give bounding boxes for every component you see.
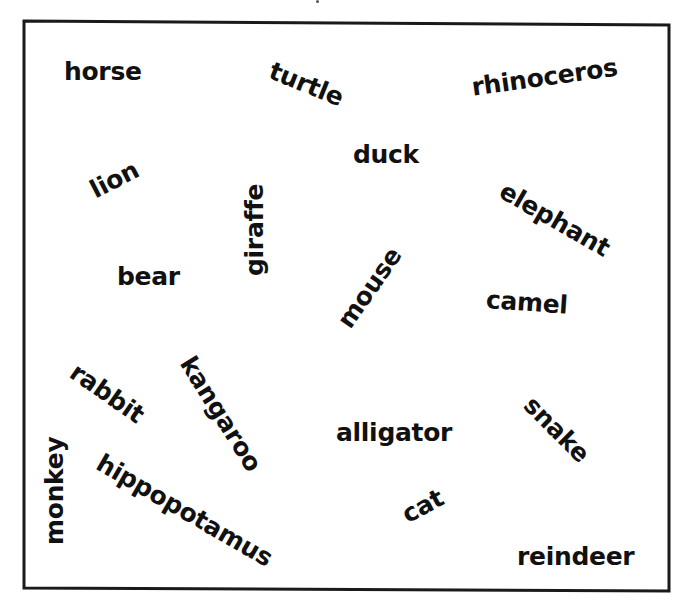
- word-horse: horse: [64, 59, 142, 84]
- word-bear: bear: [117, 264, 180, 289]
- word-duck: duck: [353, 142, 419, 167]
- word-monkey: monkey: [42, 437, 67, 545]
- word-alligator: alligator: [336, 420, 452, 445]
- word-reindeer: reindeer: [517, 544, 634, 569]
- top-mark: [316, 0, 319, 3]
- word-giraffe: giraffe: [242, 184, 267, 276]
- word-camel: camel: [485, 287, 568, 318]
